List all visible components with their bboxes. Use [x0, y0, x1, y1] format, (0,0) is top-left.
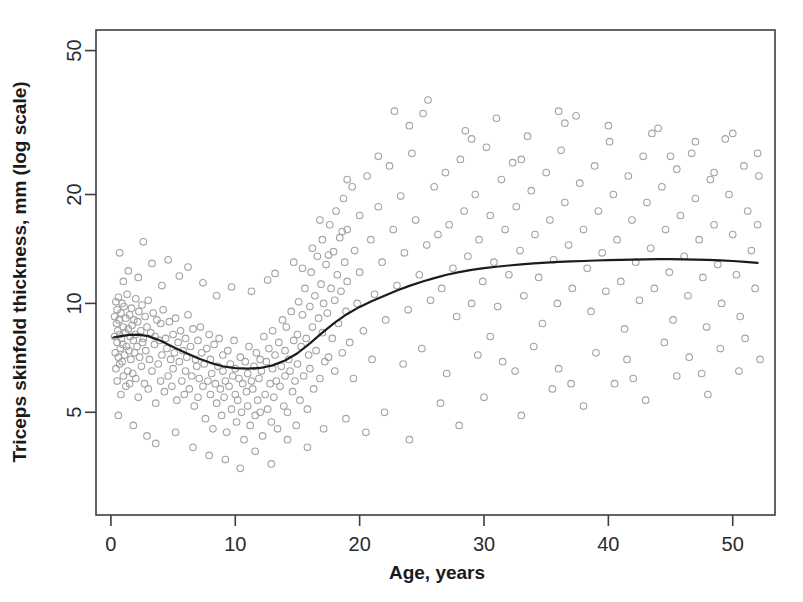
scatter-plot-svg: 01020304050 5102050 Age, years Triceps s…: [0, 0, 803, 602]
x-tick-label: 50: [722, 533, 744, 555]
x-axis-ticks: 01020304050: [105, 515, 743, 555]
plot-background: [96, 30, 775, 515]
x-tick-label: 40: [597, 533, 619, 555]
y-tick-label: 10: [63, 292, 85, 314]
y-tick-label: 20: [63, 183, 85, 205]
y-axis-ticks: 5102050: [63, 39, 96, 417]
x-tick-label: 0: [105, 533, 116, 555]
chart-figure: 01020304050 5102050 Age, years Triceps s…: [0, 0, 803, 602]
y-tick-label: 50: [63, 39, 85, 61]
x-tick-label: 30: [473, 533, 495, 555]
x-axis-title: Age, years: [389, 562, 485, 583]
y-tick-label: 5: [63, 407, 85, 418]
x-tick-label: 10: [224, 533, 246, 555]
x-tick-label: 20: [349, 533, 371, 555]
y-axis-title: Triceps skinfold thickness, mm (log scal…: [9, 81, 30, 462]
